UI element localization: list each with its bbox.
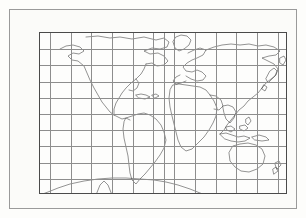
grid-line-vertical (278, 33, 279, 193)
grid-line-horizontal (40, 114, 286, 115)
world-map-figure (0, 0, 306, 218)
grid-line-vertical (91, 33, 92, 193)
grid-line-horizontal (40, 98, 286, 99)
grid-line-horizontal (40, 65, 286, 66)
figure-frame (9, 9, 297, 209)
grid-line-horizontal (40, 49, 286, 50)
map-plot-area (39, 32, 287, 194)
grid-line-vertical (195, 33, 196, 193)
grid-line-vertical (153, 33, 154, 193)
grid-line-vertical (236, 33, 237, 193)
grid-line-horizontal (40, 130, 286, 131)
grid-line-vertical (133, 33, 134, 193)
grid-line-vertical (257, 33, 258, 193)
grid-line-vertical (71, 33, 72, 193)
grid-line-vertical (164, 33, 165, 193)
grid-line-vertical (216, 33, 217, 193)
grid-line-vertical (174, 33, 175, 193)
grid-line-vertical (112, 33, 113, 193)
grid-line-horizontal (40, 179, 286, 180)
grid-line-vertical (50, 33, 51, 193)
grid-line-horizontal (40, 82, 286, 83)
grid-line-horizontal (40, 163, 286, 164)
grid-line-horizontal (40, 146, 286, 147)
